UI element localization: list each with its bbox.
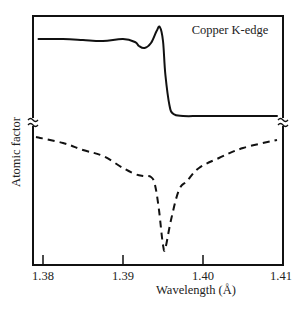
plot-frame	[33, 16, 283, 265]
solid-curve	[39, 26, 278, 116]
x-tick-label: 1.39	[112, 269, 134, 283]
x-tick-label: 1.38	[32, 269, 54, 283]
x-axis-tick-labels: 1.381.391.401.41	[32, 269, 292, 283]
chart: 1.381.391.401.41 Copper K-edge Wavelengt…	[0, 0, 306, 310]
x-axis-ticks	[43, 255, 203, 265]
x-tick-label: 1.40	[192, 269, 214, 283]
dashed-curve	[36, 137, 277, 251]
annotation-copper-k-edge: Copper K-edge	[192, 23, 269, 37]
axis-break-right	[278, 118, 288, 127]
x-axis-label: Wavelength (Å)	[156, 283, 236, 297]
x-tick-label: 1.41	[270, 269, 292, 283]
axis-break-left	[28, 118, 38, 127]
y-axis-label: Atomic factor	[9, 116, 23, 187]
